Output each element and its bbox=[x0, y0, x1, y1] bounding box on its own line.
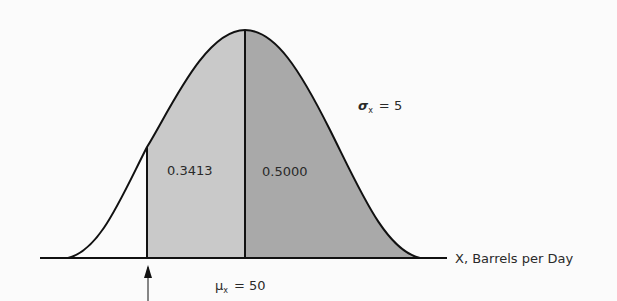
mean-label: μx= 50 bbox=[215, 278, 266, 295]
area-right-label: 0.5000 bbox=[262, 164, 308, 179]
area-right-of-mean bbox=[245, 30, 420, 258]
arrow-up-icon bbox=[144, 265, 152, 278]
sigma-label: σx= 5 bbox=[358, 98, 402, 115]
area-left-label: 0.3413 bbox=[167, 163, 213, 178]
axis-label: X, Barrels per Day bbox=[455, 251, 573, 266]
normal-curve-diagram: 0.3413 0.5000 σx= 5 μx= 50 X = 45 X, Bar… bbox=[0, 0, 617, 301]
